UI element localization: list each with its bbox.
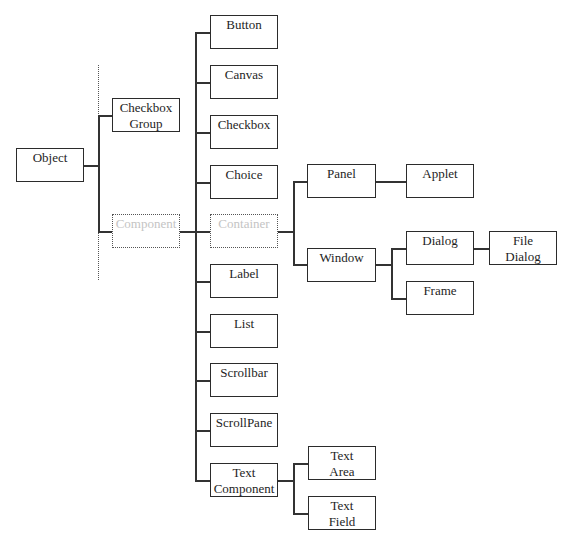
connector (391, 248, 406, 250)
connector (195, 480, 210, 482)
node-component: Component (112, 214, 180, 248)
node-container: Container (210, 214, 278, 248)
connector (83, 165, 98, 167)
node-scrollbar: Scrollbar (210, 363, 278, 397)
node-choice: Choice (210, 165, 278, 199)
connector (195, 132, 210, 134)
node-label: Label (210, 264, 278, 298)
node-text-field: TextField (308, 496, 376, 530)
node-text-area: TextArea (308, 446, 376, 480)
connector (98, 231, 112, 233)
connector (195, 331, 210, 333)
node-button: Button (210, 15, 278, 49)
connector (293, 181, 295, 265)
connector (293, 181, 307, 183)
node-file-dialog: FileDialog (489, 231, 557, 265)
node-list: List (210, 314, 278, 348)
connector (391, 298, 406, 300)
node-text-component: TextComponent (210, 463, 278, 497)
connector (391, 248, 393, 298)
connector (195, 82, 210, 84)
node-canvas: Canvas (210, 65, 278, 99)
node-window: Window (307, 248, 376, 282)
connector (98, 115, 112, 117)
connector (376, 264, 391, 266)
node-scrollpane: ScrollPane (210, 413, 278, 447)
connector (376, 181, 406, 183)
node-frame: Frame (406, 281, 474, 315)
connector (278, 480, 293, 482)
connector (278, 231, 293, 233)
connector (195, 430, 210, 432)
connector (195, 182, 210, 184)
node-object: Object (16, 148, 84, 182)
connector (195, 281, 210, 283)
connector (98, 115, 100, 231)
node-panel: Panel (307, 164, 376, 198)
class-hierarchy-diagram: ObjectCheckboxGroupComponentButtonCanvas… (0, 0, 570, 540)
connector (293, 264, 307, 266)
node-checkbox-group: CheckboxGroup (112, 98, 180, 132)
connector (474, 248, 489, 250)
node-checkbox: Checkbox (210, 115, 278, 149)
connector (195, 32, 210, 34)
node-applet: Applet (406, 164, 474, 198)
node-dialog: Dialog (406, 231, 474, 265)
connector (293, 463, 308, 465)
connector (195, 380, 210, 382)
connector (195, 32, 197, 480)
connector (293, 513, 308, 515)
connector (293, 463, 295, 513)
